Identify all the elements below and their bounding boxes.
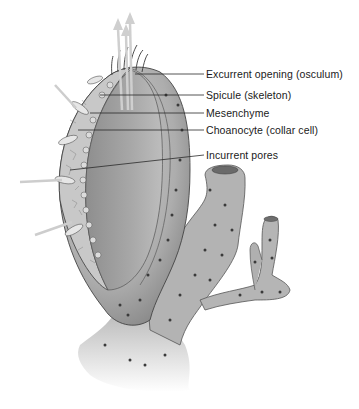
sponge-diagram: Excurrent opening (osculum) Spicule (ske… [0, 0, 359, 409]
small-tube-osculum [264, 217, 278, 222]
label-spicule: Spicule (skeleton) [206, 89, 291, 101]
tube-osculum [212, 166, 238, 174]
sponge-illustration [0, 0, 359, 409]
label-osculum: Excurrent opening (osculum) [206, 68, 343, 80]
label-incurrent-pores: Incurrent pores [206, 149, 278, 161]
label-choanocyte: Choanocyte (collar cell) [206, 124, 318, 136]
label-mesenchyme: Mesenchyme [206, 107, 269, 119]
